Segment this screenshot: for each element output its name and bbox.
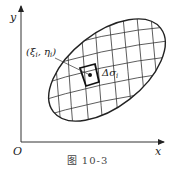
axes: y x O xyxy=(9,6,164,158)
sample-point xyxy=(88,73,92,77)
y-axis-label: y xyxy=(9,11,17,24)
point-label: (ξi, ηi) xyxy=(26,46,56,59)
figure: y x O xyxy=(0,0,175,177)
cell-label: Δσi xyxy=(101,67,118,80)
figure-caption: 图 10-3 xyxy=(0,152,175,167)
